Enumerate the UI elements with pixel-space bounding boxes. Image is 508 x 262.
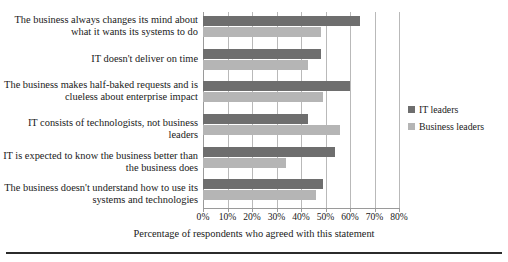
bar-group [203,77,399,110]
bar-business-leaders [203,60,308,70]
bar-it-leaders [203,147,335,157]
bar-business-leaders [203,27,321,37]
category-label: IT consists of technologists, not busine… [2,117,198,141]
legend-item-business-leaders: Business leaders [408,121,504,132]
legend-swatch-icon [408,106,415,113]
x-tick-label: 80% [382,211,416,222]
category-label: The business makes half-baked requests a… [2,79,198,103]
bar-it-leaders [203,81,350,91]
bar-it-leaders [203,49,321,59]
bar-it-leaders [203,16,360,26]
bar-it-leaders [203,114,308,124]
bar-group [203,143,399,176]
legend-item-it-leaders: IT leaders [408,104,504,115]
legend-label: IT leaders [419,104,458,115]
bar-group [203,110,399,143]
bottom-divider [6,252,502,254]
legend-label: Business leaders [419,121,484,132]
bar-group [203,175,399,208]
category-label: The business always changes its mind abo… [2,14,198,38]
bar-business-leaders [203,190,316,200]
x-axis-title: Percentage of respondents who agreed wit… [0,228,508,239]
category-label: IT is expected to know the business bett… [2,150,198,174]
gridline [399,12,400,208]
category-label: IT doesn't deliver on time [2,53,198,65]
category-label: The business doesn't understand how to u… [2,182,198,206]
chart-legend: IT leaders Business leaders [408,104,504,138]
bar-business-leaders [203,92,323,102]
bar-business-leaders [203,125,340,135]
bar-business-leaders [203,158,286,168]
bar-it-leaders [203,179,323,189]
chart-figure: The business always changes its mind abo… [0,0,508,262]
bar-group [203,45,399,78]
legend-swatch-icon [408,123,415,130]
plot-area [203,12,399,208]
bar-group [203,12,399,45]
